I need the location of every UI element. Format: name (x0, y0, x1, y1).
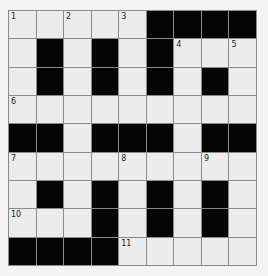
grid-cell[interactable] (229, 153, 256, 180)
grid-cell[interactable] (202, 238, 229, 265)
black-cell (92, 124, 119, 151)
black-cell (37, 238, 64, 265)
grid-cell[interactable] (229, 238, 256, 265)
grid-cell[interactable] (229, 96, 256, 123)
grid-cell[interactable] (37, 153, 64, 180)
grid-cell[interactable]: 9 (202, 153, 229, 180)
grid-cell[interactable] (37, 209, 64, 236)
clue-number: 2 (66, 12, 71, 21)
clue-number: 1 (11, 12, 16, 21)
black-cell (92, 68, 119, 95)
black-cell (147, 209, 174, 236)
grid-cell[interactable]: 11 (119, 238, 146, 265)
grid-cell[interactable] (64, 68, 91, 95)
black-cell (119, 124, 146, 151)
grid-cell[interactable] (229, 68, 256, 95)
grid-cell[interactable] (37, 11, 64, 38)
grid-cell[interactable] (174, 153, 201, 180)
grid-cell[interactable]: 10 (9, 209, 36, 236)
clue-number: 5 (231, 40, 236, 49)
grid-cell[interactable] (147, 153, 174, 180)
grid-cell[interactable] (174, 238, 201, 265)
black-cell (202, 181, 229, 208)
black-cell (229, 124, 256, 151)
grid-cell[interactable] (9, 68, 36, 95)
grid-cell[interactable] (64, 209, 91, 236)
grid-cell[interactable] (229, 181, 256, 208)
grid-cell[interactable]: 1 (9, 11, 36, 38)
grid-cell[interactable] (119, 39, 146, 66)
grid-cell[interactable] (147, 238, 174, 265)
black-cell (37, 39, 64, 66)
clue-number: 4 (176, 40, 181, 49)
black-cell (92, 39, 119, 66)
grid-cell[interactable] (119, 181, 146, 208)
black-cell (37, 68, 64, 95)
grid-cell[interactable]: 2 (64, 11, 91, 38)
grid-cell[interactable]: 6 (9, 96, 36, 123)
black-cell (202, 68, 229, 95)
black-cell (202, 124, 229, 151)
grid-cell[interactable] (119, 68, 146, 95)
grid-cell[interactable]: 5 (229, 39, 256, 66)
clue-number: 3 (121, 12, 126, 21)
grid-cell[interactable] (174, 181, 201, 208)
clue-number: 11 (121, 239, 131, 248)
grid-cell[interactable] (174, 209, 201, 236)
black-cell (174, 11, 201, 38)
grid-cell[interactable] (229, 209, 256, 236)
black-cell (9, 124, 36, 151)
black-cell (147, 39, 174, 66)
black-cell (202, 209, 229, 236)
black-cell (202, 11, 229, 38)
clue-number: 6 (11, 97, 16, 106)
grid-cell[interactable] (202, 39, 229, 66)
grid-cell[interactable]: 8 (119, 153, 146, 180)
grid-cell[interactable] (92, 153, 119, 180)
crossword-grid: 1234567891011 (8, 10, 257, 266)
grid-cell[interactable]: 3 (119, 11, 146, 38)
grid-cell[interactable] (9, 181, 36, 208)
grid-cell[interactable] (92, 96, 119, 123)
black-cell (92, 209, 119, 236)
black-cell (9, 238, 36, 265)
grid-cell[interactable] (92, 11, 119, 38)
clue-number: 7 (11, 154, 16, 163)
clue-number: 8 (121, 154, 126, 163)
grid-cell[interactable] (119, 96, 146, 123)
grid-cell[interactable]: 4 (174, 39, 201, 66)
black-cell (37, 181, 64, 208)
grid-cell[interactable] (64, 124, 91, 151)
black-cell (147, 11, 174, 38)
grid-cell[interactable] (119, 209, 146, 236)
black-cell (147, 181, 174, 208)
grid-cell[interactable] (202, 96, 229, 123)
grid-cell[interactable] (147, 96, 174, 123)
black-cell (147, 124, 174, 151)
grid-cell[interactable] (37, 96, 64, 123)
grid-cell[interactable] (64, 96, 91, 123)
black-cell (147, 68, 174, 95)
grid-cell[interactable] (174, 96, 201, 123)
clue-number: 10 (11, 210, 21, 219)
grid-cell[interactable] (64, 39, 91, 66)
grid-cell[interactable] (64, 153, 91, 180)
grid-cell[interactable]: 7 (9, 153, 36, 180)
grid-cell[interactable] (64, 181, 91, 208)
grid-cell[interactable] (9, 39, 36, 66)
grid-cell[interactable] (174, 124, 201, 151)
black-cell (37, 124, 64, 151)
black-cell (92, 181, 119, 208)
black-cell (229, 11, 256, 38)
grid-cell[interactable] (174, 68, 201, 95)
black-cell (64, 238, 91, 265)
black-cell (92, 238, 119, 265)
clue-number: 9 (204, 154, 209, 163)
